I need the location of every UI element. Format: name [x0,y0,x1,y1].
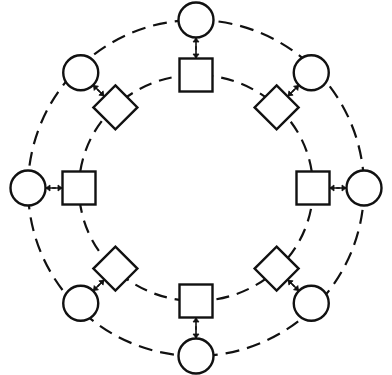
outer-circle-node-left [11,171,46,206]
spoke-top-left [63,55,137,129]
outer-circle-node-bottom [179,339,214,374]
inner-square-node-bottom [180,285,213,318]
arrow-to-inner-top-right [288,90,294,96]
outer-circle-node-bottom-left [63,286,98,321]
spoke-right [297,171,382,206]
nodes-layer [11,3,382,374]
arrow-to-inner-top [193,47,199,58]
ring-network-diagram [0,0,392,375]
spoke-bottom [179,285,214,374]
outer-circle-node-top-left [63,55,98,90]
spoke-top-right [255,55,329,129]
spoke-bottom-right [255,247,329,321]
arrow-to-inner-top-left [98,90,104,96]
inner-square-node-top [180,59,213,92]
arrow-to-inner-bottom-left [98,280,104,286]
arrow-to-inner-bottom [193,318,199,329]
spoke-top [179,3,214,92]
outer-circle-node-bottom-right [294,286,329,321]
outer-circle-node-right [347,171,382,206]
spoke-left [11,171,96,206]
arrow-to-inner-bottom-right [288,280,294,286]
spoke-bottom-left [63,247,137,321]
inner-square-node-left [63,172,96,205]
outer-circle-node-top [179,3,214,38]
arrow-to-inner-left [53,185,62,191]
outer-circle-node-top-right [294,55,329,90]
inner-square-node-right [297,172,330,205]
arrow-to-inner-right [330,185,339,191]
